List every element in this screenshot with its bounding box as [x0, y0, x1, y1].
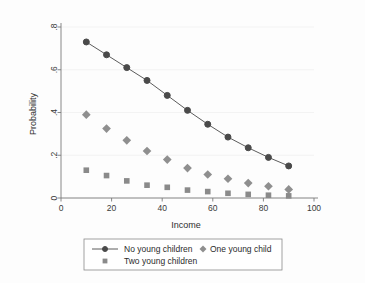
data-point [225, 190, 231, 196]
y-tick-group: 0.2.4.6.8 [49, 23, 61, 200]
data-point [84, 167, 90, 173]
legend-label-no-young-children: No young children [124, 244, 193, 254]
legend-label-two-young-children: Two young children [124, 256, 198, 266]
x-tick-label: 40 [157, 203, 167, 213]
series-0 [83, 39, 291, 169]
data-point [224, 174, 233, 183]
data-point [183, 164, 192, 173]
data-point [103, 259, 108, 264]
x-tick-label: 100 [307, 203, 321, 213]
data-point [284, 185, 293, 194]
data-point [245, 192, 251, 198]
data-point [264, 182, 273, 191]
x-axis-title: Income [171, 220, 201, 230]
data-point [102, 124, 111, 133]
data-point [266, 192, 272, 198]
data-point [163, 155, 172, 164]
data-point [245, 145, 251, 151]
data-point [164, 92, 170, 98]
data-point [122, 136, 131, 145]
y-axis: 0.2.4.6.8 [49, 23, 61, 200]
legend-label-one-young-child: One young child [210, 244, 272, 254]
x-tick-label: 20 [107, 203, 117, 213]
data-point [205, 121, 211, 127]
plot-svg: 0.2.4.6.8 020406080100 Probability Incom… [0, 0, 365, 283]
data-point [82, 110, 91, 119]
y-tick-label: .8 [49, 23, 59, 30]
data-point [124, 65, 130, 71]
data-point [143, 147, 152, 156]
data-point [205, 189, 211, 195]
x-tick-group: 020406080100 [59, 198, 322, 213]
y-tick-label: .4 [49, 109, 59, 116]
data-point [286, 193, 292, 199]
y-tick-label: .6 [49, 66, 59, 73]
chart-figure: 0.2.4.6.8 020406080100 Probability Incom… [0, 0, 365, 283]
data-point [83, 39, 89, 45]
data-point [185, 187, 191, 193]
y-axis-title: Probability [28, 92, 38, 135]
y-tick-label: .2 [49, 151, 59, 158]
data-point [225, 134, 231, 140]
data-point [244, 179, 253, 188]
data-point [144, 182, 150, 188]
chart-legend: No young childrenOne young childTwo youn… [84, 239, 282, 270]
x-tick-label: 80 [259, 203, 269, 213]
y-tick-label: 0 [49, 195, 59, 200]
data-point [144, 77, 150, 83]
series-line [86, 42, 288, 166]
data-point [124, 178, 130, 184]
data-point [104, 173, 110, 179]
data-point [185, 107, 191, 113]
data-series-layer [82, 39, 293, 199]
series-1 [82, 110, 293, 194]
data-point [103, 247, 108, 252]
x-tick-label: 60 [208, 203, 218, 213]
data-point [203, 170, 212, 179]
x-axis: 020406080100 [59, 198, 322, 213]
x-tick-label: 0 [59, 203, 64, 213]
data-point [164, 185, 170, 191]
data-point [104, 52, 110, 58]
data-point [265, 154, 271, 160]
data-point [286, 163, 292, 169]
